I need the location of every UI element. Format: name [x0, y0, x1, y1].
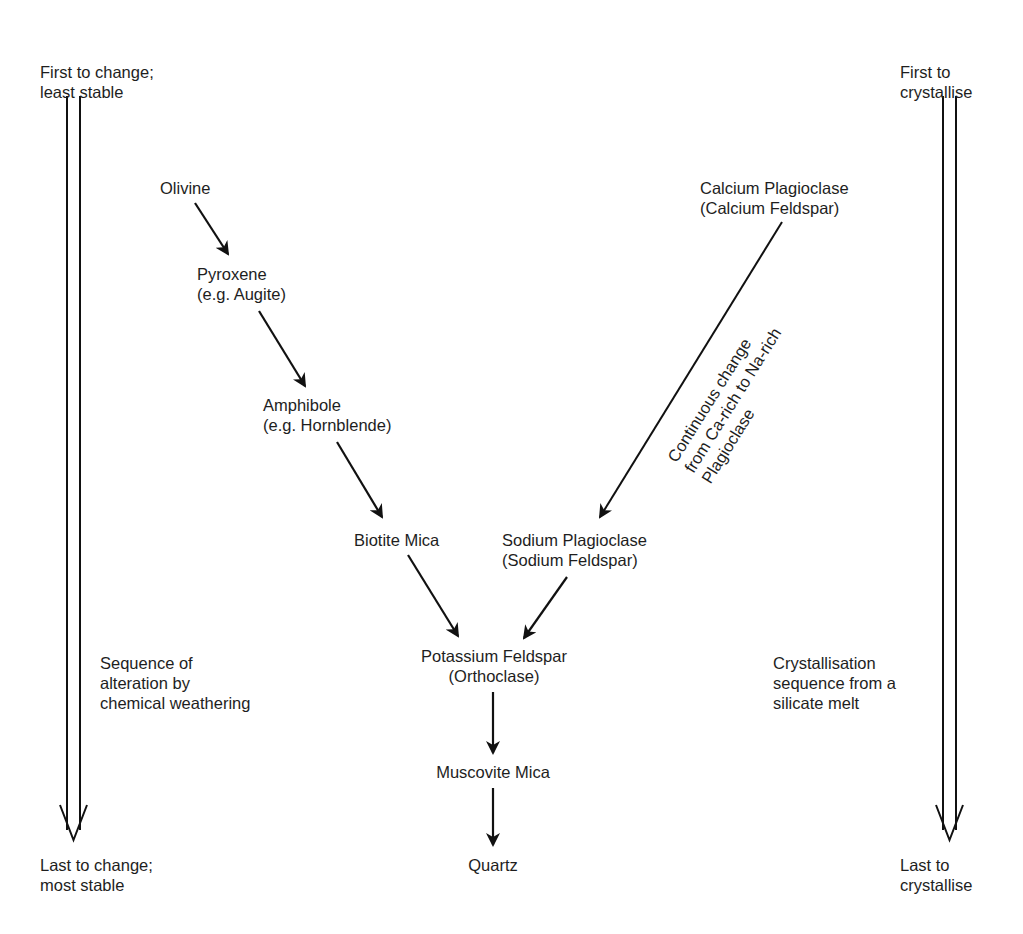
arrow-amphibole-biotite [337, 442, 382, 517]
arrow-pyroxene-amphibole [259, 311, 305, 386]
mineral-amphibole: Amphibole (e.g. Hornblende) [263, 395, 391, 435]
right-bottom-label: Last to crystallise [900, 855, 972, 895]
arrow-sodium-potassium [524, 577, 567, 638]
mineral-olivine: Olivine [160, 178, 210, 198]
mineral-calcium-plagioclase: Calcium Plagioclase (Calcium Feldspar) [700, 178, 849, 218]
mineral-pyroxene: Pyroxene (e.g. Augite) [197, 264, 286, 304]
arrow-biotite-potassium [408, 555, 458, 636]
arrow-olivine-pyroxene [195, 203, 228, 254]
left-side-label: Sequence of alteration by chemical weath… [100, 653, 250, 713]
mineral-quartz: Quartz [443, 855, 543, 875]
mineral-biotite-mica: Biotite Mica [354, 530, 439, 550]
right-top-label: First to crystallise [900, 62, 972, 102]
left-bottom-label: Last to change; most stable [40, 855, 153, 895]
right-double-arrow [936, 96, 963, 840]
diagram-arrows [0, 0, 1023, 934]
mineral-muscovite-mica: Muscovite Mica [413, 762, 573, 782]
right-side-label: Crystallisation sequence from a silicate… [773, 653, 896, 713]
mineral-potassium-feldspar: Potassium Feldspar (Orthoclase) [403, 646, 585, 686]
left-double-arrow [60, 96, 87, 840]
mineral-sodium-plagioclase: Sodium Plagioclase (Sodium Feldspar) [502, 530, 647, 570]
left-top-label: First to change; least stable [40, 62, 154, 102]
